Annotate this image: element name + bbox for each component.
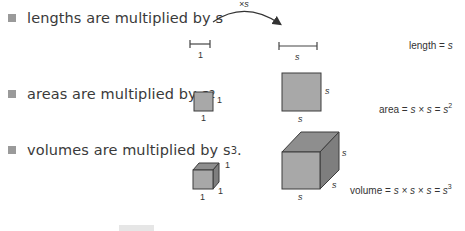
- scaled-length-segment: [279, 42, 317, 50]
- diagram-canvas: [0, 0, 465, 231]
- unit-cube: [193, 163, 219, 189]
- arrow-label: ×s: [239, 0, 249, 9]
- scaled-cube-side-label: s: [342, 148, 347, 158]
- scaled-square: [282, 73, 321, 111]
- scaled-square-bottom-label: s: [298, 114, 303, 124]
- unit-square: [194, 92, 213, 111]
- unit-square-bottom-label: 1: [201, 113, 206, 123]
- scaled-cube-bottom-label: s: [298, 192, 303, 202]
- grey-tab: [119, 225, 154, 231]
- unit-cube-depth-label: 1: [218, 186, 223, 196]
- scaled-cube: [282, 132, 339, 189]
- scaled-cube-depth-label: s: [332, 180, 337, 190]
- unit-cube-bottom-label: 1: [200, 192, 205, 202]
- volume-formula: volume = s × s × s = s3: [350, 183, 452, 196]
- length-formula: length = s: [409, 40, 453, 51]
- unit-cube-side-label: 1: [225, 160, 230, 170]
- scaled-square-side-label: s: [325, 86, 330, 96]
- area-formula: area = s × s = s2: [379, 102, 452, 115]
- unit-square-side-label: 1: [217, 95, 222, 105]
- scaled-length-label: s: [295, 52, 300, 62]
- unit-length-segment: [190, 40, 210, 48]
- arrow-icon: [213, 11, 280, 24]
- unit-length-label: 1: [198, 50, 203, 60]
